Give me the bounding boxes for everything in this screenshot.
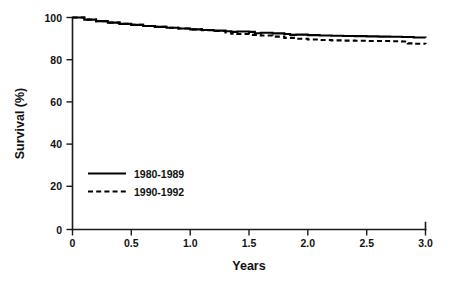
- legend-label-1980-1989: 1980-1989: [134, 168, 184, 180]
- x-tick-label-0: 0: [70, 237, 76, 249]
- y-tick-labels: 100 80 60 40 20 0: [44, 12, 62, 236]
- y-tick-label-100: 100: [44, 12, 62, 24]
- y-axis-title: Survival (%): [13, 88, 27, 160]
- chart-legend: 1980-1989 1990-1992: [88, 168, 184, 198]
- y-tick-label-20: 20: [50, 180, 62, 192]
- x-tick-label-2p5: 2.5: [359, 237, 374, 249]
- axes-group: [73, 18, 426, 230]
- y-tick-label-0: 0: [56, 224, 62, 236]
- survival-chart-figure: 100 80 60 40 20 0 0 0.5 1.0 1.5 2.0 2.5 …: [0, 0, 451, 284]
- x-tick-label-3p0: 3.0: [418, 237, 433, 249]
- x-tick-label-1p0: 1.0: [183, 237, 198, 249]
- x-tick-marks: [73, 230, 426, 236]
- x-axis-title: Years: [232, 259, 265, 273]
- legend-label-1990-1992: 1990-1992: [134, 186, 184, 198]
- y-tick-label-40: 40: [50, 138, 62, 150]
- x-tick-label-2p0: 2.0: [300, 237, 315, 249]
- x-tick-label-0p5: 0.5: [124, 237, 139, 249]
- x-tick-label-1p5: 1.5: [242, 237, 257, 249]
- x-tick-labels: 0 0.5 1.0 1.5 2.0 2.5 3.0: [70, 237, 433, 249]
- y-tick-marks: [67, 18, 73, 230]
- y-tick-label-80: 80: [50, 54, 62, 66]
- survival-chart-plot: 100 80 60 40 20 0 0 0.5 1.0 1.5 2.0 2.5 …: [0, 0, 451, 284]
- y-tick-label-60: 60: [50, 96, 62, 108]
